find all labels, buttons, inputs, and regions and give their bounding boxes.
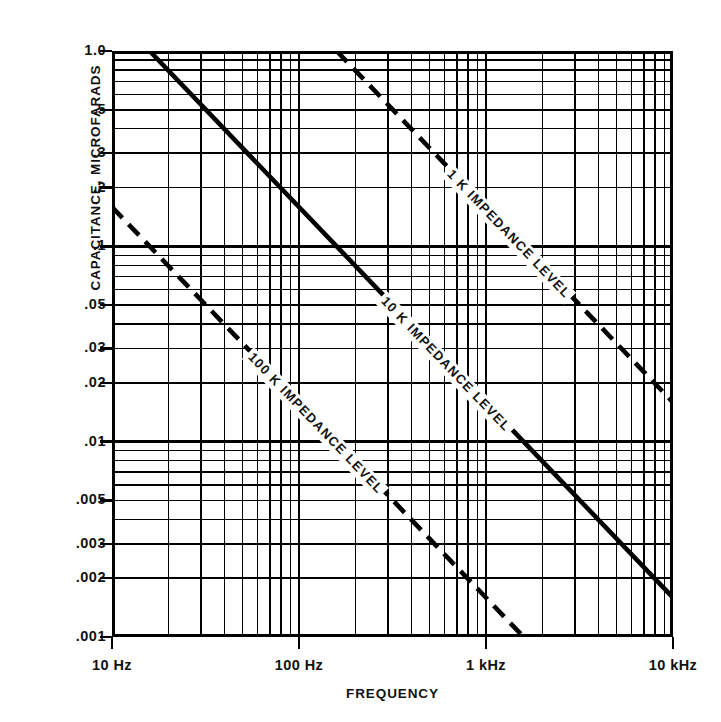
capacitance-vs-frequency-chart: CAPACITANCE, MICROFARADS 1.0.5.3.2.1.05.… — [0, 0, 721, 722]
y-tick-label: .05 — [44, 297, 106, 312]
y-tick-label: .003 — [44, 536, 106, 551]
plot-svg — [112, 51, 673, 637]
y-tick-label: .001 — [44, 629, 106, 644]
y-tick-mark — [100, 109, 112, 112]
y-tick-mark — [100, 347, 112, 350]
y-tick-mark — [100, 50, 112, 53]
y-tick-label: .1 — [44, 238, 106, 253]
y-tick-mark — [100, 152, 112, 155]
x-tick-label: 10 kHz — [649, 658, 697, 673]
y-tick-mark — [100, 499, 112, 502]
y-tick-mark — [100, 245, 112, 248]
x-tick-mark — [111, 637, 114, 649]
x-axis-tick-labels: 10 Hz100 Hz1 kHz10 kHz — [0, 648, 721, 678]
y-tick-label: .3 — [44, 145, 106, 160]
y-tick-mark — [100, 577, 112, 580]
y-tick-mark — [100, 440, 112, 443]
x-tick-label: 100 Hz — [275, 658, 323, 673]
y-tick-mark — [100, 186, 112, 189]
x-tick-label: 10 Hz — [92, 658, 132, 673]
y-tick-label: .005 — [44, 492, 106, 507]
y-tick-mark — [100, 382, 112, 385]
plot-area: 1 K IMPEDANCE LEVEL10 K IMPEDANCE LEVEL1… — [112, 51, 673, 637]
x-tick-mark — [298, 637, 301, 649]
y-tick-label: 1.0 — [44, 43, 106, 58]
x-tick-label: 1 kHz — [466, 658, 506, 673]
y-tick-label: .03 — [44, 340, 106, 355]
minor-gridlines — [112, 51, 673, 637]
x-tick-mark — [485, 637, 488, 649]
y-tick-label: .02 — [44, 375, 106, 390]
y-axis-tick-labels: 1.0.5.3.2.1.05.03.02.01.005.003.002.001 — [36, 0, 106, 722]
y-tick-mark — [100, 543, 112, 546]
y-tick-label: .2 — [44, 180, 106, 195]
y-tick-label: .002 — [44, 570, 106, 585]
y-tick-mark — [100, 304, 112, 307]
y-tick-label: .5 — [44, 102, 106, 117]
x-axis-title: FREQUENCY — [112, 686, 673, 701]
x-tick-mark — [672, 637, 675, 649]
plot-frame — [113, 52, 671, 635]
y-tick-label: .01 — [44, 434, 106, 449]
